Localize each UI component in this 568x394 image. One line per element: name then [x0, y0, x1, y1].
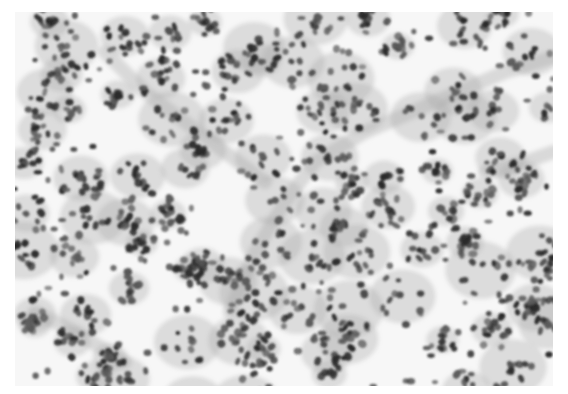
nucleus	[182, 360, 188, 364]
nucleus	[239, 346, 244, 353]
nucleus	[469, 228, 477, 235]
nucleus	[28, 96, 33, 100]
nucleus	[498, 255, 505, 261]
nucleus	[471, 202, 478, 207]
nucleus	[270, 357, 277, 364]
nucleus	[352, 332, 360, 336]
nucleus	[320, 84, 328, 91]
nucleus	[34, 170, 42, 174]
nucleus	[291, 300, 297, 306]
nucleus	[296, 192, 301, 197]
nucleus	[525, 12, 532, 17]
nucleus	[272, 42, 279, 46]
nucleus	[69, 211, 76, 216]
nucleus	[184, 306, 190, 313]
nucleus	[492, 260, 496, 266]
nucleus	[521, 33, 528, 39]
nucleus	[316, 289, 322, 295]
nucleus	[510, 161, 517, 167]
nucleus	[522, 172, 530, 178]
nucleus	[62, 187, 70, 192]
nucleus	[238, 141, 244, 147]
nucleus	[190, 92, 196, 97]
nucleus	[533, 172, 538, 178]
nucleus	[524, 211, 532, 216]
nucleus	[451, 346, 457, 352]
nucleus	[196, 298, 203, 303]
histology-micrograph: Grayscale light micrograph of densely ce…	[15, 12, 553, 386]
nucleus	[360, 23, 365, 28]
nucleus	[77, 274, 84, 279]
nucleus	[93, 176, 100, 180]
nucleus	[292, 166, 300, 172]
figure: Grayscale light micrograph of densely ce…	[0, 0, 568, 394]
nucleus	[411, 29, 416, 35]
nucleus	[282, 251, 287, 256]
nucleus	[544, 183, 549, 189]
nucleus	[547, 50, 553, 57]
nucleus	[532, 73, 540, 79]
nucleus	[125, 371, 132, 377]
nucleus	[496, 151, 504, 155]
nucleus	[32, 113, 40, 120]
nucleus	[281, 323, 287, 329]
nucleus	[441, 113, 446, 118]
nucleus	[435, 180, 441, 184]
nucleus	[440, 243, 447, 248]
nucleus	[140, 250, 145, 254]
nucleus	[44, 368, 50, 375]
nucleus	[85, 78, 92, 83]
nucleus	[483, 46, 488, 51]
nucleus	[429, 149, 436, 155]
nucleus	[144, 349, 152, 355]
nucleus	[452, 225, 460, 231]
nucleus	[340, 338, 347, 344]
nucleus	[519, 296, 527, 302]
nucleus	[164, 240, 170, 246]
nucleus	[388, 220, 393, 226]
nucleus	[378, 49, 386, 55]
nucleus	[274, 290, 282, 295]
nucleus	[330, 107, 336, 113]
nucleus	[66, 99, 74, 106]
nucleus	[15, 187, 18, 191]
nucleus	[297, 16, 305, 20]
nucleus	[250, 362, 256, 368]
nucleus	[330, 135, 336, 139]
nucleus	[468, 134, 475, 140]
nucleus	[359, 64, 366, 69]
nucleus	[432, 380, 438, 384]
nucleus	[242, 360, 248, 367]
nucleus	[305, 320, 313, 327]
nucleus	[503, 299, 509, 303]
nucleus	[256, 270, 263, 275]
nucleus	[455, 329, 461, 336]
nucleus	[97, 362, 103, 367]
nucleus	[535, 298, 542, 302]
nucleus	[232, 77, 238, 84]
nucleus	[32, 373, 38, 379]
nucleus	[250, 185, 257, 190]
nucleus	[161, 225, 168, 232]
nucleus	[437, 129, 445, 133]
nucleus	[357, 282, 364, 288]
cell-nest	[445, 241, 515, 299]
nucleus	[61, 291, 69, 297]
nucleus	[222, 87, 228, 92]
nucleus	[110, 265, 116, 271]
nucleus	[74, 305, 79, 311]
nucleus	[528, 363, 535, 370]
nucleus	[417, 290, 424, 296]
nucleus	[539, 317, 546, 322]
nucleus	[168, 67, 173, 73]
nucleus	[53, 142, 60, 146]
nucleus	[60, 237, 66, 241]
nucleus	[288, 286, 296, 293]
nucleus	[220, 254, 224, 260]
nucleus	[237, 168, 245, 174]
nucleus	[506, 260, 512, 267]
nucleus	[91, 318, 98, 323]
nucleus	[339, 222, 345, 227]
nucleus	[521, 261, 526, 266]
nucleus	[496, 63, 504, 68]
